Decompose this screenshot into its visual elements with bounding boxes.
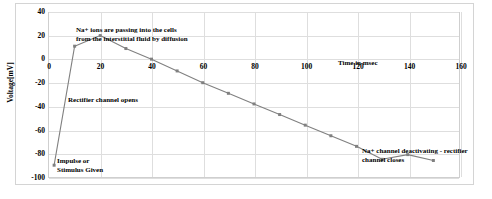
annotation-sodium-influx: Na+ ions are passing into the cells from… bbox=[76, 26, 188, 44]
annotation-sodium-influx-line1: Na+ ions are passing into the cells bbox=[76, 26, 188, 35]
y-axis-tick--100: -100 bbox=[15, 174, 45, 182]
data-point-marker bbox=[227, 92, 230, 95]
data-point-marker bbox=[73, 45, 76, 48]
figure-caption bbox=[2, 188, 490, 198]
data-point-marker bbox=[253, 102, 256, 105]
gridline-horizontal bbox=[49, 178, 459, 179]
y-axis-title: Voltage[mV] bbox=[6, 50, 15, 116]
annotation-deactivating-line2: channel closes bbox=[362, 156, 468, 165]
chart-figure: Voltage[mV] 40200-20-40-60-80-100 020406… bbox=[0, 0, 492, 199]
y-axis-tick--80: -80 bbox=[15, 151, 45, 159]
data-point-marker bbox=[304, 124, 307, 127]
data-point-marker bbox=[329, 134, 332, 137]
annotation-impulse-stimulus: Impulse or Stimulus Given bbox=[57, 157, 103, 175]
y-axis-tick--40: -40 bbox=[15, 103, 45, 111]
annotation-deactivating-line1: Na+ channel deactivating - rectifier bbox=[362, 147, 468, 156]
y-axis-tick-40: 40 bbox=[15, 8, 45, 16]
annotation-sodium-deactivating: Na+ channel deactivating - rectifier cha… bbox=[362, 147, 468, 165]
annotation-time-axis-line1: Time in msec bbox=[338, 59, 378, 68]
annotation-time-axis-label: Time in msec bbox=[338, 59, 378, 68]
annotation-rectifier-opens: Rectifier channel opens bbox=[68, 96, 138, 105]
y-axis-tick-20: 20 bbox=[15, 32, 45, 40]
annotation-sodium-influx-line2: from the interstitial fluid by diffusion bbox=[76, 35, 188, 44]
annotation-impulse-line1: Impulse or bbox=[57, 157, 103, 166]
annotation-impulse-line2: Stimulus Given bbox=[57, 166, 103, 175]
data-point-marker bbox=[355, 145, 358, 148]
annotation-rectifier-opens-line1: Rectifier channel opens bbox=[68, 96, 138, 105]
data-point-marker bbox=[278, 113, 281, 116]
y-axis-tick--20: -20 bbox=[15, 79, 45, 87]
y-axis-tick--60: -60 bbox=[15, 127, 45, 135]
data-point-marker bbox=[201, 81, 204, 84]
data-point-marker bbox=[150, 58, 153, 61]
y-axis-tick-0: 0 bbox=[15, 56, 45, 64]
data-point-marker bbox=[53, 164, 56, 167]
data-point-marker bbox=[124, 47, 127, 50]
data-point-marker bbox=[176, 69, 179, 72]
